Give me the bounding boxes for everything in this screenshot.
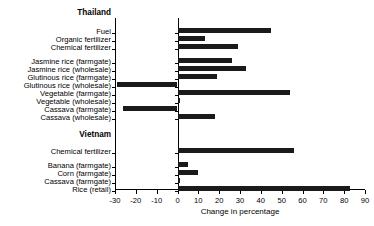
category-axis-tick: [175, 167, 178, 168]
x-axis-tick-label: 30: [236, 197, 244, 205]
category-label: Rice (retail): [72, 186, 111, 194]
x-axis-tick: [136, 190, 137, 194]
bar: [178, 58, 232, 63]
bar: [178, 170, 199, 175]
bar: [117, 82, 177, 87]
bar-chart: ThailandFuelOrganic fertilizerChemical f…: [0, 0, 374, 226]
category-label: Chemical fertilizer: [51, 148, 111, 156]
plot-area: -30-20-100102030405060708090: [115, 18, 365, 190]
category-axis-tick: [175, 103, 178, 104]
category-axis-tick: [175, 191, 178, 192]
bar: [178, 148, 295, 153]
category-spine-tick: [112, 71, 115, 72]
x-axis-tick: [365, 190, 366, 194]
x-axis-tick-label: 10: [194, 197, 202, 205]
category-spine-tick: [112, 79, 115, 80]
category-spine-tick: [112, 175, 115, 176]
category-axis-tick: [175, 33, 178, 34]
category-spine-tick: [112, 191, 115, 192]
x-axis-title: Change in percentage: [115, 207, 365, 216]
category-spine-tick: [112, 183, 115, 184]
x-axis-tick-label: 80: [340, 197, 348, 205]
category-axis-spine: [115, 18, 116, 190]
x-axis-tick: [157, 190, 158, 194]
x-axis-tick-label: 90: [361, 197, 369, 205]
category-label-column: ThailandFuelOrganic fertilizerChemical f…: [0, 0, 113, 190]
bar: [178, 178, 180, 183]
category-axis-tick: [175, 183, 178, 184]
bar: [178, 90, 291, 95]
bar: [178, 186, 351, 191]
bar: [178, 36, 205, 41]
category-axis-tick: [175, 95, 178, 96]
x-axis-tick-label: 50: [277, 197, 285, 205]
category-axis-tick: [175, 175, 178, 176]
category-axis-tick: [175, 79, 178, 80]
category-axis-tick: [175, 71, 178, 72]
category-spine-tick: [112, 87, 115, 88]
bar: [178, 114, 216, 119]
category-axis-tick: [175, 49, 178, 50]
category-spine-tick: [112, 63, 115, 64]
bar: [178, 74, 218, 79]
category-spine-tick: [112, 41, 115, 42]
category-axis-tick: [175, 41, 178, 42]
category-label: Chemical fertilizer: [51, 44, 111, 52]
x-axis-tick-label: -30: [110, 197, 121, 205]
category-axis-tick: [175, 63, 178, 64]
x-axis-tick-label: 40: [257, 197, 265, 205]
category-spine-tick: [112, 153, 115, 154]
category-axis-tick: [175, 153, 178, 154]
x-axis-tick: [115, 190, 116, 194]
x-axis-tick-label: 70: [319, 197, 327, 205]
bar: [178, 28, 272, 33]
category-group-label: Thailand: [77, 9, 111, 17]
x-axis-tick-label: 20: [215, 197, 223, 205]
bar: [178, 44, 238, 49]
x-axis-tick-label: 0: [175, 197, 179, 205]
category-spine-tick: [112, 119, 115, 120]
category-axis-tick: [175, 111, 178, 112]
category-spine-tick: [112, 111, 115, 112]
category-spine-tick: [112, 103, 115, 104]
x-axis-tick-label: 60: [298, 197, 306, 205]
category-axis-tick: [175, 119, 178, 120]
bar: [178, 162, 188, 167]
bar: [178, 66, 247, 71]
bar: [123, 106, 177, 111]
category-spine-tick: [112, 33, 115, 34]
x-axis-tick-label: -10: [151, 197, 162, 205]
category-axis-tick: [175, 87, 178, 88]
x-axis-tick-label: -20: [130, 197, 141, 205]
category-group-label: Vietnam: [79, 131, 111, 139]
bar: [178, 98, 180, 103]
category-spine-tick: [112, 49, 115, 50]
category-label: Cassava (wholesale): [41, 114, 111, 122]
category-spine-tick: [112, 167, 115, 168]
category-spine-tick: [112, 95, 115, 96]
